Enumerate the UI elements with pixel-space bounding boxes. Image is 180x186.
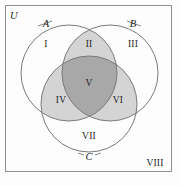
region-label-2: II — [86, 39, 93, 49]
region-label-6: VI — [113, 95, 123, 105]
venn-diagram-figure: U A B C I II III IV V VI VII VIII — [0, 0, 180, 186]
region-label-8: VIII — [146, 158, 163, 168]
region-label-1: I — [44, 39, 47, 49]
leader-line-c-left — [78, 153, 84, 155]
region-label-4: IV — [56, 95, 66, 105]
region-label-5: V — [85, 78, 92, 88]
set-label-a: A — [43, 18, 50, 29]
universe-label: U — [10, 10, 18, 21]
region-label-7: VII — [82, 131, 96, 141]
region-label-3: III — [128, 39, 138, 49]
leader-line-c-right — [95, 153, 101, 155]
set-label-b: B — [130, 18, 137, 29]
set-label-c: C — [85, 151, 92, 162]
